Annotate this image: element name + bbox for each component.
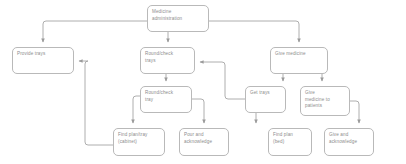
node-label-line: (bed) <box>273 139 308 146</box>
edge-give-medicine-to-patients-to-give-and-acknowledge <box>350 101 359 123</box>
node-label-line: (cabinet) <box>118 139 161 146</box>
node-label-line: administration <box>152 16 205 23</box>
node-label-line: patients <box>305 103 346 110</box>
node-round-check-trays[interactable]: Round/check trays <box>140 47 195 74</box>
node-give-medicine-to-patients[interactable]: Give medicine to patients <box>300 86 350 116</box>
edge-find-plan-tray-to-provide-trays <box>79 61 113 145</box>
node-label-line: Find plan/tray <box>118 132 161 139</box>
edge-round-check-tray-to-pour-and-acknowledge <box>192 99 204 123</box>
node-label-line: medicine to <box>305 97 346 104</box>
node-label-line: Find plan <box>273 132 308 139</box>
node-label-line: Pour and <box>184 132 225 139</box>
flowchart-canvas: Medicine administration Provide trays Ro… <box>0 0 406 164</box>
node-medicine-administration[interactable]: Medicine administration <box>147 5 209 32</box>
node-label-line: Medicine <box>152 9 205 16</box>
node-give-medicine[interactable]: Give medicine <box>270 47 328 74</box>
node-label-line: Give <box>305 90 346 97</box>
node-label-line: acknowledge <box>329 139 370 146</box>
node-provide-trays[interactable]: Provide trays <box>12 47 74 74</box>
edge-root-to-give-medicine <box>209 21 299 42</box>
node-label-line: Get trays <box>250 90 282 97</box>
node-pour-and-acknowledge[interactable]: Pour and acknowledge <box>179 128 229 156</box>
edge-root-to-provide-trays <box>43 21 147 42</box>
node-find-plan-tray-cabinet[interactable]: Find plan/tray (cabinet) <box>113 128 165 156</box>
node-give-and-acknowledge[interactable]: Give and acknowledge <box>324 128 374 156</box>
node-label-line: Give medicine <box>275 51 324 58</box>
node-label-line: Round/check <box>145 90 188 97</box>
node-round-check-tray[interactable]: Round/check tray <box>140 86 192 113</box>
node-label-line: Give and <box>329 132 370 139</box>
node-get-trays[interactable]: Get trays <box>245 86 286 113</box>
node-label-line: Round/check <box>145 51 191 58</box>
edge-round-check-tray-to-find-plan-tray <box>133 96 140 123</box>
node-label-line: Provide trays <box>17 51 70 58</box>
edge-get-trays-to-round-check-trays <box>200 62 245 99</box>
node-label-line: trays <box>145 58 191 65</box>
node-find-plan-bed[interactable]: Find plan (bed) <box>268 128 312 156</box>
node-label-line: acknowledge <box>184 139 225 146</box>
node-label-line: tray <box>145 97 188 104</box>
